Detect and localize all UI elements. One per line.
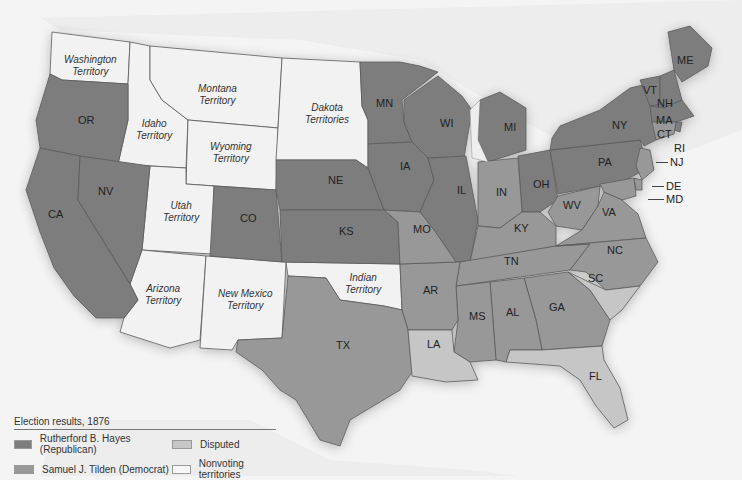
swatch-nonvoting-icon <box>172 465 191 474</box>
label-nc: NC <box>607 245 623 256</box>
label-in: IN <box>496 187 507 198</box>
label-de: DE <box>666 181 681 192</box>
label-mn: MN <box>376 98 393 109</box>
label-dakota-territories: DakotaTerritories <box>305 102 349 125</box>
swatch-hayes-icon <box>14 440 32 449</box>
label-me: ME <box>677 55 694 66</box>
swatch-tilden-icon <box>14 465 34 474</box>
label-co: CO <box>240 213 257 224</box>
label-mi: MI <box>504 122 516 133</box>
label-oh: OH <box>533 179 550 190</box>
label-washington-territory: WashingtonTerritory <box>64 54 117 77</box>
label-wi: WI <box>440 118 453 129</box>
leader-de <box>652 186 664 187</box>
label-ms: MS <box>469 311 486 322</box>
label-va: VA <box>602 207 616 218</box>
label-montana-territory: MontanaTerritory <box>198 83 237 106</box>
label-ks: KS <box>339 226 354 237</box>
label-al: AL <box>506 307 519 318</box>
label-idaho-territory: IdahoTerritory <box>136 118 172 141</box>
label-arizona-territory: ArizonaTerritory <box>145 283 181 306</box>
legend-label-hayes: Rutherford B. Hayes (Republican) <box>40 433 172 455</box>
label-ca: CA <box>48 209 63 220</box>
state-fl[interactable] <box>506 346 628 428</box>
label-ia: IA <box>400 161 410 172</box>
label-newmexico-territory: New MexicoTerritory <box>218 288 272 311</box>
leader-md <box>648 199 664 200</box>
label-ky: KY <box>514 223 529 234</box>
legend-label-tilden: Samuel J. Tilden (Democrat) <box>42 464 169 475</box>
leader-nj <box>656 162 668 163</box>
label-md: MD <box>666 194 683 205</box>
state-ar[interactable] <box>400 262 460 330</box>
label-tn: TN <box>504 256 519 267</box>
label-nh: NH <box>657 98 673 109</box>
label-il: IL <box>457 185 466 196</box>
legend-item-hayes: Rutherford B. Hayes (Republican) <box>14 433 172 455</box>
label-sc: SC <box>588 273 603 284</box>
label-indian-territory: IndianTerritory <box>345 272 381 295</box>
legend-item-nonvoting: Nonvoting territories <box>172 458 282 480</box>
state-ks[interactable] <box>280 210 400 264</box>
label-ct: CT <box>657 129 672 140</box>
label-mo: MO <box>413 224 431 235</box>
legend-label-disputed: Disputed <box>200 439 239 450</box>
label-ma: MA <box>656 115 673 126</box>
label-fl: FL <box>589 371 602 382</box>
label-ri: RI <box>674 143 685 154</box>
label-utah-territory: UtahTerritory <box>163 200 199 223</box>
label-ar: AR <box>423 285 438 296</box>
state-co[interactable] <box>210 186 282 262</box>
swatch-disputed-icon <box>172 440 192 449</box>
label-pa: PA <box>598 157 612 168</box>
label-tx: TX <box>336 340 350 351</box>
legend-item-disputed: Disputed <box>172 433 282 455</box>
label-nv: NV <box>98 186 113 197</box>
label-wv: WV <box>563 200 581 211</box>
label-ne: NE <box>328 175 343 186</box>
legend-item-tilden: Samuel J. Tilden (Democrat) <box>14 458 172 480</box>
map-legend: Election results, 1876 Rutherford B. Hay… <box>14 416 282 480</box>
state-ms[interactable] <box>454 282 496 362</box>
label-or: OR <box>78 115 95 126</box>
label-ny: NY <box>612 120 627 131</box>
label-la: LA <box>427 339 440 350</box>
label-vt: VT <box>643 85 657 96</box>
label-ga: GA <box>549 302 565 313</box>
label-nj: NJ <box>670 157 683 168</box>
legend-label-nonvoting: Nonvoting territories <box>199 458 282 480</box>
legend-title: Election results, 1876 <box>14 416 276 430</box>
label-wyoming-territory: WyomingTerritory <box>210 141 252 164</box>
